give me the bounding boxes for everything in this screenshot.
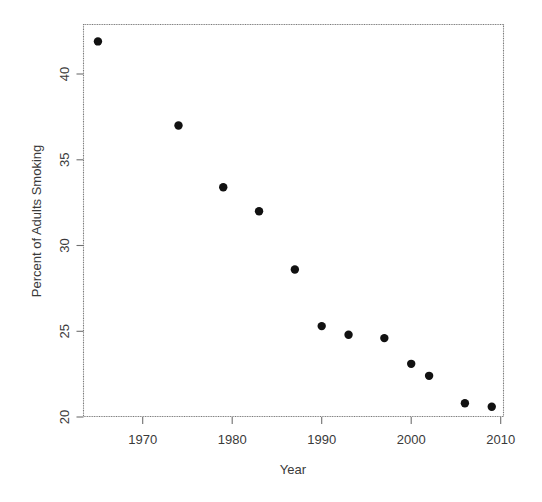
y-axis-ticks — [77, 74, 84, 417]
x-axis-tick-labels: 1970 1980 1990 2000 2010 — [128, 432, 515, 447]
y-axis-tick-labels: 20 25 30 35 40 — [57, 67, 72, 424]
y-tick-label: 35 — [57, 153, 72, 167]
x-tick-label: 2000 — [397, 432, 426, 447]
x-tick-label: 1990 — [307, 432, 336, 447]
data-point — [291, 265, 299, 273]
x-tick-label: 2010 — [486, 432, 515, 447]
x-tick-label: 1980 — [218, 432, 247, 447]
data-point — [461, 399, 469, 407]
data-point — [407, 360, 415, 368]
y-axis-title: Percent of Adults Smoking — [29, 145, 44, 297]
data-point — [488, 403, 496, 411]
y-tick-label: 25 — [57, 324, 72, 338]
data-point — [174, 121, 182, 129]
plot-frame — [84, 25, 504, 417]
data-point — [255, 207, 263, 215]
data-point — [344, 330, 352, 338]
scatter-plot-figure: 1970 1980 1990 2000 2010 20 25 30 35 40 … — [0, 0, 542, 502]
x-axis-title: Year — [280, 462, 307, 477]
x-tick-label: 1970 — [128, 432, 157, 447]
y-tick-label: 40 — [57, 67, 72, 81]
x-axis-ticks — [143, 417, 501, 424]
data-point-layer — [94, 37, 496, 411]
plot-canvas: 1970 1980 1990 2000 2010 20 25 30 35 40 … — [0, 0, 542, 502]
y-tick-label: 30 — [57, 238, 72, 252]
data-point — [425, 372, 433, 380]
data-point — [219, 183, 227, 191]
y-tick-label: 20 — [57, 410, 72, 424]
data-point — [94, 37, 102, 45]
data-point — [318, 322, 326, 330]
data-point — [380, 334, 388, 342]
